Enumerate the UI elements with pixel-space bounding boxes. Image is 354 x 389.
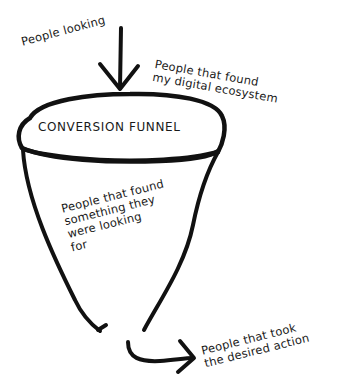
entry-arrow-icon — [100, 28, 138, 89]
funnel-title: CONVERSION FUNNEL — [38, 120, 180, 134]
exit-arrow-icon — [128, 341, 194, 372]
funnel-diagram: People looking People that found my digi… — [0, 0, 354, 389]
